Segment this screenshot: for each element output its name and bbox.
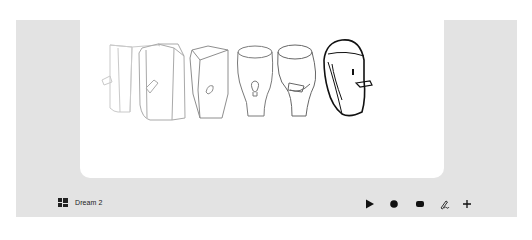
drawing-canvas[interactable]: [80, 20, 444, 178]
draw-button[interactable]: [436, 196, 452, 212]
frame-5-drawing: [278, 45, 316, 116]
add-button[interactable]: [459, 196, 475, 212]
layout-grid-icon: [58, 198, 68, 207]
onion-skin-frames: [80, 20, 444, 178]
frame-3-drawing: [190, 46, 228, 118]
frame-2-drawing: [139, 44, 185, 120]
pen-scribble-icon: [439, 199, 450, 210]
bottom-toolbar: Dream 2: [16, 192, 517, 216]
record-icon: [389, 199, 399, 209]
frame-6-drawing: [324, 40, 372, 116]
editor-panel: Dream 2: [16, 20, 517, 217]
play-icon: [365, 199, 375, 209]
frame-1-drawing: [102, 45, 160, 112]
stop-icon: [415, 199, 425, 209]
scene-selector[interactable]: Dream 2: [58, 198, 103, 207]
record-button[interactable]: [386, 196, 402, 212]
frame-4-drawing: [238, 46, 273, 116]
plus-icon: [462, 199, 472, 209]
stop-button[interactable]: [412, 196, 428, 212]
scene-name: Dream 2: [75, 199, 103, 206]
play-button[interactable]: [362, 196, 378, 212]
